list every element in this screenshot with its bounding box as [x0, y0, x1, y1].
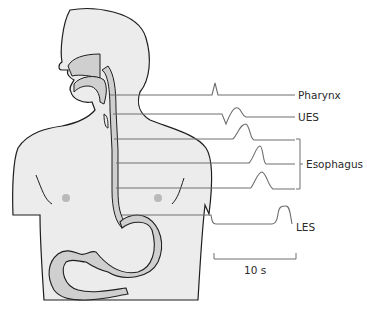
trace-les: [208, 206, 292, 224]
trace-eso1: [233, 124, 295, 140]
scale-bar: [214, 253, 296, 259]
label-esophagus: Esophagus: [306, 159, 363, 170]
label-les: LES: [296, 222, 315, 233]
nipple-left: [62, 194, 70, 202]
trace-ues: [218, 108, 295, 124]
nipple-right: [154, 194, 162, 202]
label-scale: 10 s: [244, 265, 266, 276]
esophagus-bracket: [296, 139, 303, 189]
trace-eso3: [251, 172, 295, 189]
label-ues: UES: [298, 112, 319, 123]
trace-eso2: [249, 146, 295, 164]
label-pharynx: Pharynx: [298, 90, 341, 101]
trace-pharynx: [205, 83, 295, 95]
swallowing-diagram: [0, 0, 367, 313]
